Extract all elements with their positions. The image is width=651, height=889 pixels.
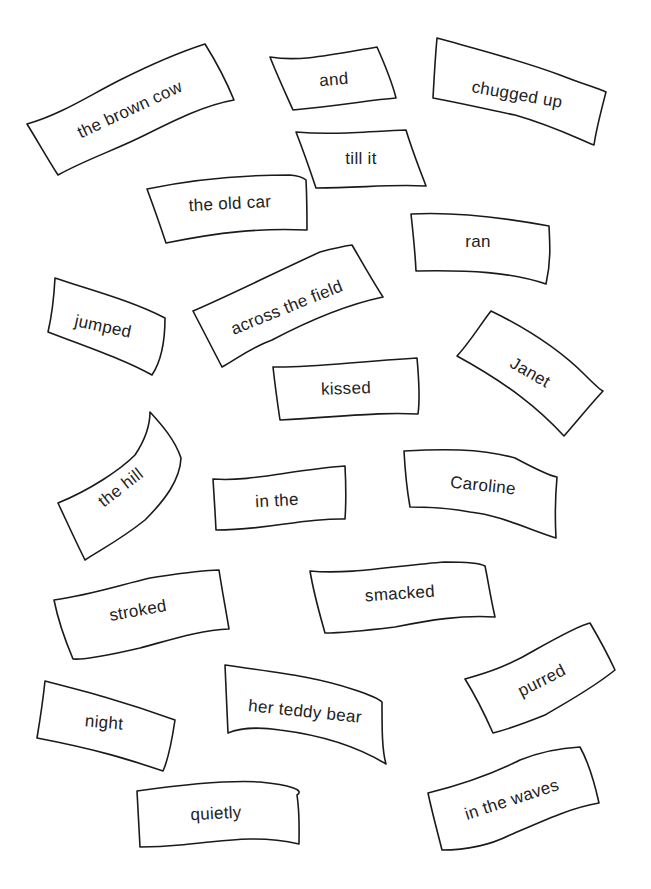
card-outline	[0, 0, 651, 889]
word-card-sheet: the brown cowandchugged uptill itthe old…	[0, 0, 651, 889]
